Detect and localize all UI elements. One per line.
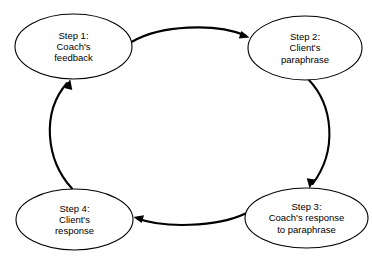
node-step-4-shape[interactable] bbox=[16, 189, 133, 250]
nodes-group bbox=[15, 14, 368, 250]
arrow-step1-to-step2-head bbox=[239, 31, 250, 39]
arrow-step3-to-step4 bbox=[138, 214, 246, 225]
arrow-step2-to-step3 bbox=[309, 80, 330, 185]
arrow-step3-to-step4-head bbox=[133, 215, 144, 223]
diagram-canvas bbox=[0, 0, 372, 259]
node-step-2-shape[interactable] bbox=[248, 16, 362, 80]
node-step-3-shape[interactable] bbox=[245, 188, 368, 248]
arrow-step4-to-step1 bbox=[50, 83, 72, 189]
arrow-step1-to-step2 bbox=[133, 27, 246, 41]
node-step-1-shape[interactable] bbox=[15, 14, 132, 79]
cycle-diagram: Step 1: Coach's feedback Step 2: Client'… bbox=[0, 0, 372, 259]
